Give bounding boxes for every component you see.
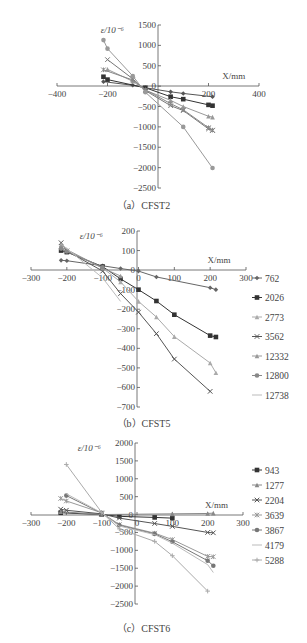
x-tick-label: 300 xyxy=(236,518,250,528)
legend-label: 2204 xyxy=(265,496,284,506)
legend-label: 4179 xyxy=(265,541,284,551)
marker-star xyxy=(64,499,69,504)
series-943 xyxy=(58,510,174,520)
legend-label: 5288 xyxy=(265,556,284,566)
y-tick-label: −2000 xyxy=(110,581,134,591)
x-axis-label: X/mm xyxy=(205,500,228,510)
marker-star xyxy=(58,496,63,501)
y-tick-label: 1500 xyxy=(115,456,134,466)
marker-plus xyxy=(255,558,260,563)
marker-square xyxy=(255,468,260,473)
y-tick-label: 1000 xyxy=(115,474,134,484)
marker-square xyxy=(152,515,157,520)
y-tick-label: −1500 xyxy=(110,563,134,573)
y-tick-label: 500 xyxy=(120,492,134,502)
x-tick-label: −300 xyxy=(22,518,41,528)
chart-c-caption: （c）CFST6 xyxy=(0,620,307,635)
series-line xyxy=(66,494,213,573)
chart-c-cfst6: −300−200−10001002003002000150010005000−5… xyxy=(0,0,307,643)
legend-label: 3639 xyxy=(265,511,284,521)
legend-label: 1277 xyxy=(265,481,284,491)
y-tick-label: −2500 xyxy=(110,599,134,609)
marker-circle xyxy=(255,528,260,533)
y-tick-label: 2000 xyxy=(115,438,134,448)
marker-circle xyxy=(205,558,210,563)
series-2204 xyxy=(58,507,215,535)
x-tick-label: 200 xyxy=(201,518,215,528)
legend-label: 3867 xyxy=(265,526,284,536)
marker-square xyxy=(170,516,175,521)
legend: 943127722043639386741795288 xyxy=(252,466,284,566)
series-4179 xyxy=(66,494,213,573)
y-tick-label: −1000 xyxy=(110,545,134,555)
x-tick-label: −200 xyxy=(57,518,76,528)
legend-label: 943 xyxy=(265,466,280,476)
marker-circle xyxy=(211,563,216,568)
y-axis-label: ε/10⁻⁶ xyxy=(78,443,101,453)
x-tick-label: 0 xyxy=(135,518,140,528)
